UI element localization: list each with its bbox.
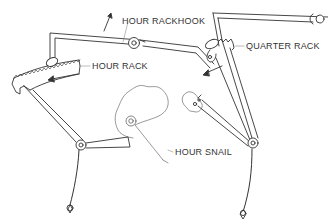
snail-arbor: [126, 116, 136, 126]
quarter-rack-motion-arrow: [203, 66, 222, 76]
striking-mechanism-diagram: [0, 0, 328, 224]
hour-snail: [115, 85, 168, 163]
hour-snail-label: HOUR SNAIL: [175, 148, 232, 157]
hour-snail-leader: [168, 150, 173, 152]
hour-rackhook-label: HOUR RACKHOOK: [122, 17, 205, 26]
right-rack-pivot: [240, 138, 258, 219]
quarter-snail: [182, 92, 250, 146]
left-rack-pivot: [67, 137, 130, 213]
hour-rack: [12, 56, 83, 142]
rackhook-lift-arrow: [104, 13, 112, 31]
quarter-rack-label: QUARTER RACK: [246, 42, 320, 51]
rackhook-pivot: [129, 38, 140, 49]
hour-rack-label: HOUR RACK: [92, 62, 148, 71]
quarter-rack: [204, 13, 328, 140]
